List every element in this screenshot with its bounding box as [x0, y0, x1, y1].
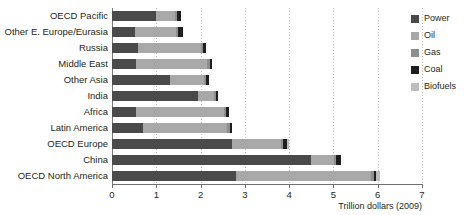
bar-row [112, 59, 212, 69]
legend-item-oil[interactable]: Oil [411, 27, 468, 44]
bar-segment-biofuels [376, 171, 380, 181]
bar-segment-oil [138, 43, 201, 53]
legend-swatch-icon [411, 66, 419, 74]
bar-segment-power [112, 171, 236, 181]
legend-swatch-icon [411, 49, 419, 57]
legend-label: Biofuels [424, 82, 456, 91]
legend-swatch-icon [411, 83, 419, 91]
bar-segment-coal [210, 59, 212, 69]
legend-label: Power [424, 14, 450, 23]
bar-segment-power [112, 155, 311, 165]
bar-segment-coal [178, 27, 182, 37]
x-axis-line [112, 184, 422, 185]
bar-segment-oil [156, 11, 175, 21]
bar-segment-oil [236, 171, 371, 181]
bar-row [112, 123, 232, 133]
bar-segment-coal [216, 91, 218, 101]
legend-item-biofuels[interactable]: Biofuels [411, 78, 468, 95]
bar-segment-power [112, 107, 136, 117]
category-label: Russia [0, 43, 108, 53]
bar-segment-oil [135, 27, 176, 37]
bar-row [112, 11, 181, 21]
bar-segment-coal [177, 11, 181, 21]
x-tick-label-3: 3 [242, 189, 247, 200]
x-tick-3 [245, 184, 246, 188]
bar-segment-power [112, 91, 198, 101]
legend: PowerOilGasCoalBiofuels [411, 10, 468, 95]
bar-segment-power [112, 59, 136, 69]
x-tick-0 [112, 184, 113, 188]
category-label: China [0, 155, 108, 165]
bar-row [112, 75, 209, 85]
legend-item-power[interactable]: Power [411, 10, 468, 27]
category-label: OECD Europe [0, 139, 108, 149]
bar-segment-coal [226, 107, 229, 117]
bar-row [112, 155, 341, 165]
bar-segment-coal [206, 75, 209, 85]
legend-label: Gas [424, 48, 441, 57]
x-tick-7 [422, 184, 423, 188]
bar-segment-oil [136, 59, 207, 69]
bar-segment-coal [336, 155, 341, 165]
category-axis-labels: OECD PacificOther E. Europe/EurasiaRussi… [0, 8, 108, 184]
category-label: OECD Pacific [0, 11, 108, 21]
legend-label: Oil [424, 31, 435, 40]
x-tick-label-4: 4 [286, 189, 291, 200]
x-tick-5 [333, 184, 334, 188]
legend-item-gas[interactable]: Gas [411, 44, 468, 61]
bar-series-group [112, 8, 422, 184]
category-label: Other E. Europe/Eurasia [0, 27, 108, 37]
plot-area [112, 8, 422, 184]
bar-segment-oil [232, 139, 282, 149]
category-label: Middle East [0, 59, 108, 69]
bar-segment-oil [170, 75, 205, 85]
x-tick-label-6: 6 [375, 189, 380, 200]
bar-row [112, 91, 218, 101]
bar-segment-oil [143, 123, 227, 133]
category-label: Latin America [0, 123, 108, 133]
bar-row [112, 107, 229, 117]
x-axis-label: Trillion dollars (2009) [0, 201, 422, 211]
bar-segment-power [112, 43, 138, 53]
x-tick-label-2: 2 [198, 189, 203, 200]
category-label: Africa [0, 107, 108, 117]
x-tick-label-7: 7 [419, 189, 424, 200]
bar-row [112, 139, 289, 149]
stacked-bar-chart: OECD PacificOther E. Europe/EurasiaRussi… [0, 0, 468, 215]
bar-segment-power [112, 11, 156, 21]
x-tick-6 [378, 184, 379, 188]
bar-segment-power [112, 123, 143, 133]
bar-segment-oil [136, 107, 224, 117]
legend-label: Coal [424, 65, 443, 74]
bar-segment-oil [311, 155, 334, 165]
category-label: OECD North America [0, 171, 108, 181]
bar-segment-biofuels [287, 139, 289, 149]
legend-swatch-icon [411, 15, 419, 23]
x-tick-label-5: 5 [331, 189, 336, 200]
bar-segment-power [112, 139, 232, 149]
bar-row [112, 43, 206, 53]
bar-row [112, 171, 380, 181]
bar-segment-power [112, 27, 135, 37]
x-tick-1 [156, 184, 157, 188]
bar-segment-oil [198, 91, 214, 101]
legend-item-coal[interactable]: Coal [411, 61, 468, 78]
bar-segment-coal [230, 123, 233, 133]
bar-segment-power [112, 75, 170, 85]
legend-swatch-icon [411, 32, 419, 40]
bar-row [112, 27, 183, 37]
x-tick-2 [201, 184, 202, 188]
category-label: Other Asia [0, 75, 108, 85]
bar-segment-coal [203, 43, 206, 53]
x-tick-4 [289, 184, 290, 188]
x-tick-label-1: 1 [154, 189, 159, 200]
x-tick-label-0: 0 [109, 189, 114, 200]
category-label: India [0, 91, 108, 101]
